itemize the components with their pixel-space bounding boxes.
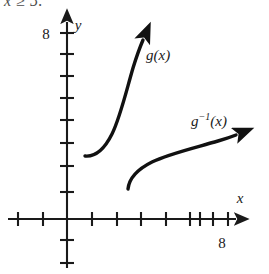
curve-g-path xyxy=(85,40,143,156)
x-axis-tick-label-8: 8 xyxy=(218,235,226,251)
curve-g-inverse-arg: (x) xyxy=(210,113,227,130)
curve-g: g(x) xyxy=(85,40,170,156)
curve-g-inverse-exponent: −1 xyxy=(199,111,211,122)
x-axis-group: x 8 xyxy=(8,190,244,251)
curve-g-inverse-path xyxy=(128,135,236,189)
y-axis-tick-label-8: 8 xyxy=(42,26,50,42)
curve-g-inverse-label: g−1(x) xyxy=(191,111,227,130)
curve-g-label: g(x) xyxy=(146,47,170,64)
math-figure: x ≥ 5. x xyxy=(0,0,269,274)
curve-g-label-text: g(x) xyxy=(146,47,170,64)
y-axis-label: y xyxy=(73,17,82,33)
coordinate-plane-graph: x 8 y 8 g(x) xyxy=(0,0,269,274)
y-axis-group: y 8 xyxy=(42,17,81,268)
curve-g-inverse: g−1(x) xyxy=(128,111,236,189)
x-axis-label: x xyxy=(236,190,244,206)
